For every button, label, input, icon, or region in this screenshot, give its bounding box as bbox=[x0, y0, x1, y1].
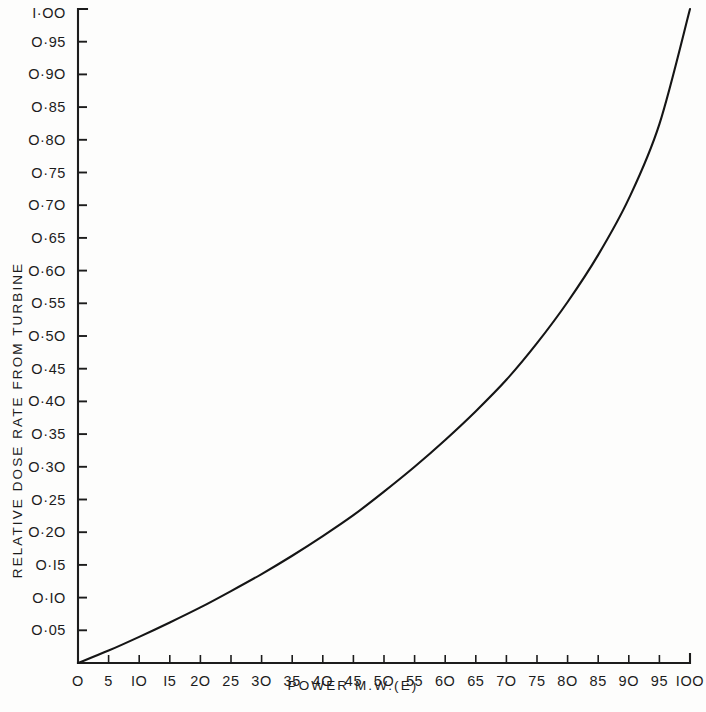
x-tick-label: O bbox=[72, 673, 84, 689]
x-tick-label: 3O bbox=[251, 673, 272, 689]
y-tick-label: O·5O bbox=[28, 328, 66, 344]
y-tick-label: O·7O bbox=[28, 197, 66, 213]
y-axis-ticks bbox=[78, 9, 87, 630]
y-tick-label: O·35 bbox=[31, 426, 66, 442]
y-tick-label: O·55 bbox=[31, 295, 66, 311]
y-tick-label: O·4O bbox=[28, 393, 66, 409]
y-tick-label: O·85 bbox=[31, 99, 66, 115]
data-curve-relative-dose-rate bbox=[78, 9, 690, 663]
y-tick-label: O·75 bbox=[31, 165, 66, 181]
y-tick-label: O·45 bbox=[31, 361, 66, 377]
x-tick-label: 7O bbox=[496, 673, 517, 689]
x-axis-ticks bbox=[109, 655, 690, 663]
y-axis-title: RELATIVE DOSE RATE FROM TURBINE bbox=[10, 262, 25, 578]
y-axis-tick-labels: O·05O·IOO·I5O·2OO·25O·3OO·35O·4OO·45O·5O… bbox=[28, 5, 66, 638]
y-tick-label: O·I5 bbox=[35, 557, 66, 573]
x-tick-label: 6O bbox=[435, 673, 456, 689]
y-tick-label: O·2O bbox=[28, 524, 66, 540]
x-tick-label: 65 bbox=[467, 673, 484, 689]
y-tick-label: O·3O bbox=[28, 459, 66, 475]
x-tick-label: 25 bbox=[222, 673, 239, 689]
y-tick-label: O·25 bbox=[31, 492, 66, 508]
x-tick-label: 75 bbox=[528, 673, 545, 689]
chart-plot-area: O·05O·IOO·I5O·2OO·25O·3OO·35O·4OO·45O·5O… bbox=[0, 0, 706, 712]
y-tick-label: O·8O bbox=[28, 132, 66, 148]
x-tick-label: 85 bbox=[590, 673, 607, 689]
x-axis-title: POWER M.W.(E) bbox=[288, 678, 419, 693]
x-tick-label: 8O bbox=[557, 673, 578, 689]
y-tick-label: O·6O bbox=[28, 263, 66, 279]
x-tick-label: 5 bbox=[104, 673, 113, 689]
y-tick-label: O·95 bbox=[31, 34, 66, 50]
y-tick-label: O·05 bbox=[31, 622, 66, 638]
y-tick-label: O·IO bbox=[32, 590, 66, 606]
x-tick-label: IOO bbox=[676, 673, 704, 689]
chart-figure: O·05O·IOO·I5O·2OO·25O·3OO·35O·4OO·45O·5O… bbox=[0, 0, 706, 712]
x-tick-label: 2O bbox=[190, 673, 211, 689]
y-tick-label: O·65 bbox=[31, 230, 66, 246]
x-tick-label: 9O bbox=[619, 673, 640, 689]
y-tick-label: O·9O bbox=[28, 66, 66, 82]
y-tick-label: I·OO bbox=[32, 5, 66, 21]
x-tick-label: IO bbox=[131, 673, 148, 689]
x-tick-label: 95 bbox=[651, 673, 668, 689]
x-tick-label: I5 bbox=[163, 673, 176, 689]
